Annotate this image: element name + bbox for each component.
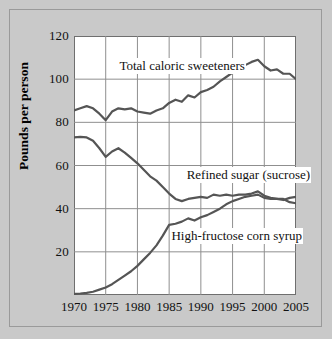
x-tick-label: 2005 [283, 299, 309, 315]
chart-svg [74, 36, 296, 295]
y-tick-label: 40 [56, 201, 69, 217]
y-tick-label: 20 [56, 244, 69, 260]
x-tick-label: 1975 [93, 299, 119, 315]
plot-region: Total caloric sweetenersRefined sugar (s… [74, 36, 296, 295]
x-tick-label: 1995 [220, 299, 246, 315]
series-annotation-0: Total caloric sweeteners [118, 58, 245, 74]
series-annotation-2: High-fructose corn syrup [170, 228, 303, 244]
series-line-2 [74, 195, 296, 294]
x-tick-label: 1985 [156, 299, 182, 315]
x-axis-tick-labels: 19701975198019851990199520002005 [74, 299, 296, 319]
x-tick-label: 1980 [124, 299, 150, 315]
y-axis-tick-labels: 12010080604020 [36, 36, 69, 295]
y-tick-label: 100 [49, 71, 69, 87]
y-tick-label: 80 [56, 114, 69, 130]
series-annotation-1: Refined sugar (sucrose) [186, 167, 311, 183]
y-tick-label: 60 [56, 158, 69, 174]
y-axis-title: Pounds per person [16, 51, 32, 181]
x-tick-label: 2000 [251, 299, 277, 315]
chart-figure: Pounds per person 12010080604020 Total c… [0, 0, 332, 339]
y-tick-label: 120 [49, 28, 69, 44]
x-tick-label: 1970 [61, 299, 87, 315]
x-tick-label: 1990 [188, 299, 214, 315]
